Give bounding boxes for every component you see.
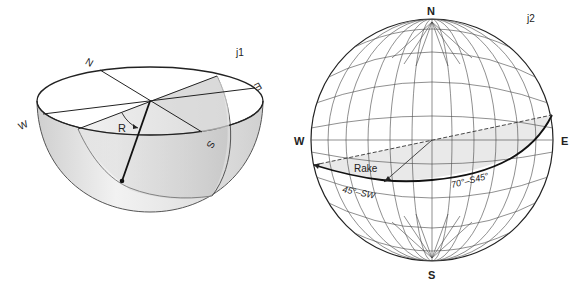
compass-north: N: [427, 5, 435, 17]
compass-west: W: [16, 118, 30, 132]
hemisphere-diagram: R N W E S j1: [16, 47, 263, 212]
rake-label: Rake: [354, 163, 378, 174]
compass-east: E: [561, 135, 568, 147]
compass-west: W: [294, 135, 305, 147]
figure-canvas: R N W E S j1: [0, 0, 582, 290]
lineation-point: [120, 179, 125, 184]
compass-south: S: [428, 269, 435, 281]
compass-north: N: [84, 56, 96, 69]
stereonet: Rake 45°–SW 70°–S45° N S W E j2: [294, 5, 568, 281]
panel-label-j2: j2: [526, 13, 535, 24]
panel-label-j1: j1: [235, 47, 244, 58]
rake-angle-label: R: [118, 122, 126, 134]
